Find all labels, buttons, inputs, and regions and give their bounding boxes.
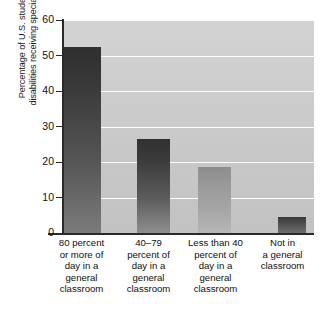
y-tick-label-20: 20 — [2, 156, 54, 167]
x-label-line: classroom — [49, 283, 114, 295]
y-tick-0 — [56, 233, 62, 234]
x-label-line: general — [116, 272, 181, 284]
y-tick-50 — [56, 55, 62, 56]
y-tick-label-30: 30 — [2, 121, 54, 132]
y-tick-label-40: 40 — [2, 85, 54, 96]
x-label-line: percent of — [183, 249, 248, 261]
y-tick-label-0: 0 — [2, 227, 54, 238]
bar-40-79-percent — [137, 139, 170, 233]
x-label-line: day in a — [183, 260, 248, 272]
x-label-line: general — [49, 272, 114, 284]
bar-80-percent-or-more — [64, 47, 101, 233]
x-label-not-in-general-classroom: Not in a general classroom — [249, 237, 316, 309]
x-label-line: classroom — [116, 283, 181, 295]
y-tick-label-50: 50 — [2, 50, 54, 61]
x-label-line: Not in — [250, 237, 315, 249]
x-label-line: day in a — [116, 260, 181, 272]
x-axis-line — [48, 233, 314, 235]
y-tick-60 — [56, 20, 62, 21]
x-label-80-percent-or-more: 80 percent or more of day in a general c… — [48, 237, 115, 309]
x-label-line: general — [183, 272, 248, 284]
x-label-line: or more of — [49, 249, 114, 261]
y-tick-label-60: 60 — [2, 14, 54, 25]
bar-less-than-40-percent — [198, 167, 231, 233]
x-label-line: classroom — [250, 260, 315, 272]
x-label-line: percent of — [116, 249, 181, 261]
x-label-40-79-percent: 40–79 percent of day in a general classr… — [115, 237, 182, 309]
x-axis-category-labels: 80 percent or more of day in a general c… — [48, 237, 316, 309]
y-tick-20 — [56, 162, 62, 163]
y-tick-label-10: 10 — [2, 192, 54, 203]
x-label-line: classroom — [183, 283, 248, 295]
bar-chart-figure: Percentage of U.S. students with disabil… — [0, 0, 322, 309]
y-axis-line — [62, 19, 64, 234]
x-label-line: Less than 40 — [183, 237, 248, 249]
y-tick-40 — [56, 91, 62, 92]
x-label-line: 40–79 — [116, 237, 181, 249]
x-label-line: 80 percent — [49, 237, 114, 249]
bar-not-in-general-classroom — [278, 217, 306, 233]
x-label-less-than-40-percent: Less than 40 percent of day in a general… — [182, 237, 249, 309]
y-axis-tick-labels: 60 50 40 30 20 10 0 — [0, 0, 54, 309]
x-label-line: day in a — [49, 260, 114, 272]
plot-area — [63, 20, 314, 233]
gridline-60 — [63, 20, 314, 21]
y-tick-30 — [56, 126, 62, 127]
y-tick-10 — [56, 197, 62, 198]
x-label-line: a general — [250, 249, 315, 261]
